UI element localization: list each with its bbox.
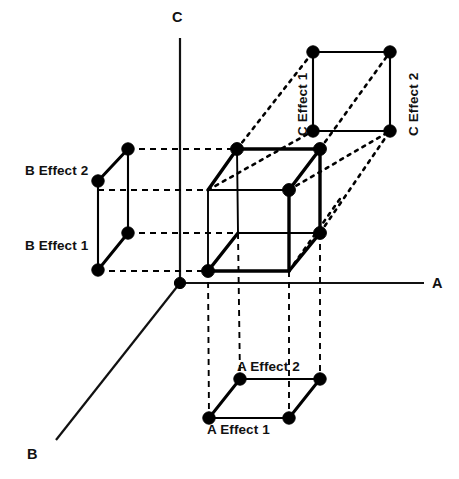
c-vertex-bottom-right xyxy=(384,125,396,137)
cube-vertex-origin-marker xyxy=(174,277,185,288)
b-projection-shape xyxy=(92,143,134,276)
central-cube xyxy=(174,143,326,289)
a-vertex-back-right xyxy=(314,373,326,385)
factorial-design-diagram: C A B B Effect 2 B Effect 1 C Effect 1 C… xyxy=(0,0,459,479)
axis-b-line xyxy=(56,283,180,440)
guide-c-from-back-bottom-right xyxy=(320,131,390,233)
cube-edge-bottom-right-diagonal xyxy=(289,233,320,271)
b-vertex-lower-left xyxy=(92,264,104,276)
b-vertex-upper-right xyxy=(122,143,134,155)
axis-label-c: C xyxy=(172,10,183,25)
b-vertex-upper-left xyxy=(92,175,104,187)
cube-edge-bottom-left-diagonal xyxy=(208,233,238,271)
guide-a-front-left xyxy=(208,271,209,418)
cube-vertex-front-bottom-left xyxy=(202,265,215,278)
axis-label-a: A xyxy=(432,276,443,291)
a-vertex-front-right xyxy=(283,412,295,424)
guide-c-from-back-top-right xyxy=(320,52,390,149)
c-vertex-top-left xyxy=(307,46,319,58)
b-edge-lower-diagonal xyxy=(98,233,128,270)
cube-edge-top-left-diagonal xyxy=(208,149,237,190)
label-b-effect-2: B Effect 2 xyxy=(25,164,88,178)
label-a-effect-1: A Effect 1 xyxy=(207,423,270,437)
axis-label-b: B xyxy=(27,447,38,462)
cube-edge-top-right-diagonal xyxy=(289,149,320,190)
cube-vertex-back-bottom-right xyxy=(314,227,327,240)
guide-a-back-left xyxy=(238,233,240,379)
b-projection-guides xyxy=(98,149,238,271)
label-c-effect-2: C Effect 2 xyxy=(407,73,421,136)
cube-vertex-front-top-right xyxy=(283,184,296,197)
cube-vertex-back-top-left xyxy=(231,143,244,156)
label-b-effect-1: B Effect 1 xyxy=(25,239,88,253)
cube-edge-hidden-interior-vertical xyxy=(237,149,238,233)
b-vertex-lower-right xyxy=(122,227,134,239)
guide-c-from-front-top-right xyxy=(289,131,390,190)
label-c-effect-1: C Effect 1 xyxy=(296,73,310,136)
a-edge-left-diagonal xyxy=(209,379,240,418)
a-projection-parallelogram xyxy=(203,373,326,424)
label-a-effect-2: A Effect 2 xyxy=(237,360,300,374)
c-vertex-top-right xyxy=(384,46,396,58)
a-edge-right-diagonal xyxy=(289,379,320,418)
a-projection-guides xyxy=(208,233,320,418)
c-projection-square xyxy=(307,46,396,137)
a-vertex-back-left xyxy=(234,373,246,385)
cube-vertex-back-top-right xyxy=(314,143,327,156)
